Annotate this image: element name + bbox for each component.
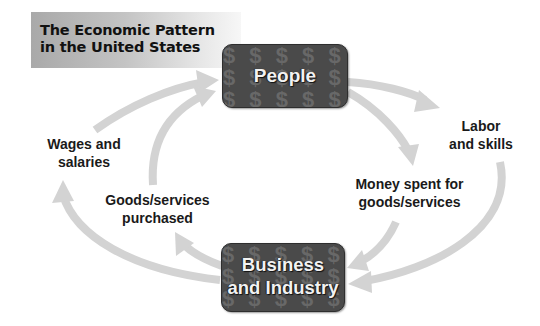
arrowhead-wages-up: [52, 180, 74, 203]
goods-purchased-line-1: Goods/services: [95, 191, 220, 209]
labor-line-2: and skills: [432, 135, 530, 153]
arrowhead-labor-business: [348, 271, 372, 293]
business-label-line-2: and Industry: [222, 276, 344, 299]
arrow-goods-upper: [153, 96, 202, 185]
people-label: People: [223, 65, 347, 87]
money-spent-line-1: Money spent for: [342, 175, 477, 193]
arrow-money-lower: [360, 222, 396, 262]
labor-label: Labor and skills: [432, 117, 530, 153]
wages-line-2: salaries: [24, 153, 144, 171]
money-spent-label: Money spent for goods/services: [342, 175, 477, 211]
arrowhead-money: [398, 144, 419, 166]
business-label-line-1: Business: [222, 253, 344, 276]
wages-label: Wages and salaries: [24, 135, 144, 171]
goods-purchased-label: Goods/services purchased: [95, 191, 220, 227]
business-label: Business and Industry: [222, 253, 344, 299]
people-node: $ $ $ $ $ $ $ $ $ $ $ $ $ $ $ $ $ $ $ $ …: [222, 44, 348, 108]
arrow-money-upper: [348, 92, 408, 150]
goods-purchased-line-2: purchased: [95, 209, 220, 227]
wages-line-1: Wages and: [24, 135, 144, 153]
business-node: $ $ $ $ $ $ $ $ $ $ $ $ $ $ $ $ $ $ $ $ …: [221, 243, 345, 312]
money-spent-line-2: goods/services: [342, 193, 477, 211]
labor-line-1: Labor: [432, 117, 530, 135]
